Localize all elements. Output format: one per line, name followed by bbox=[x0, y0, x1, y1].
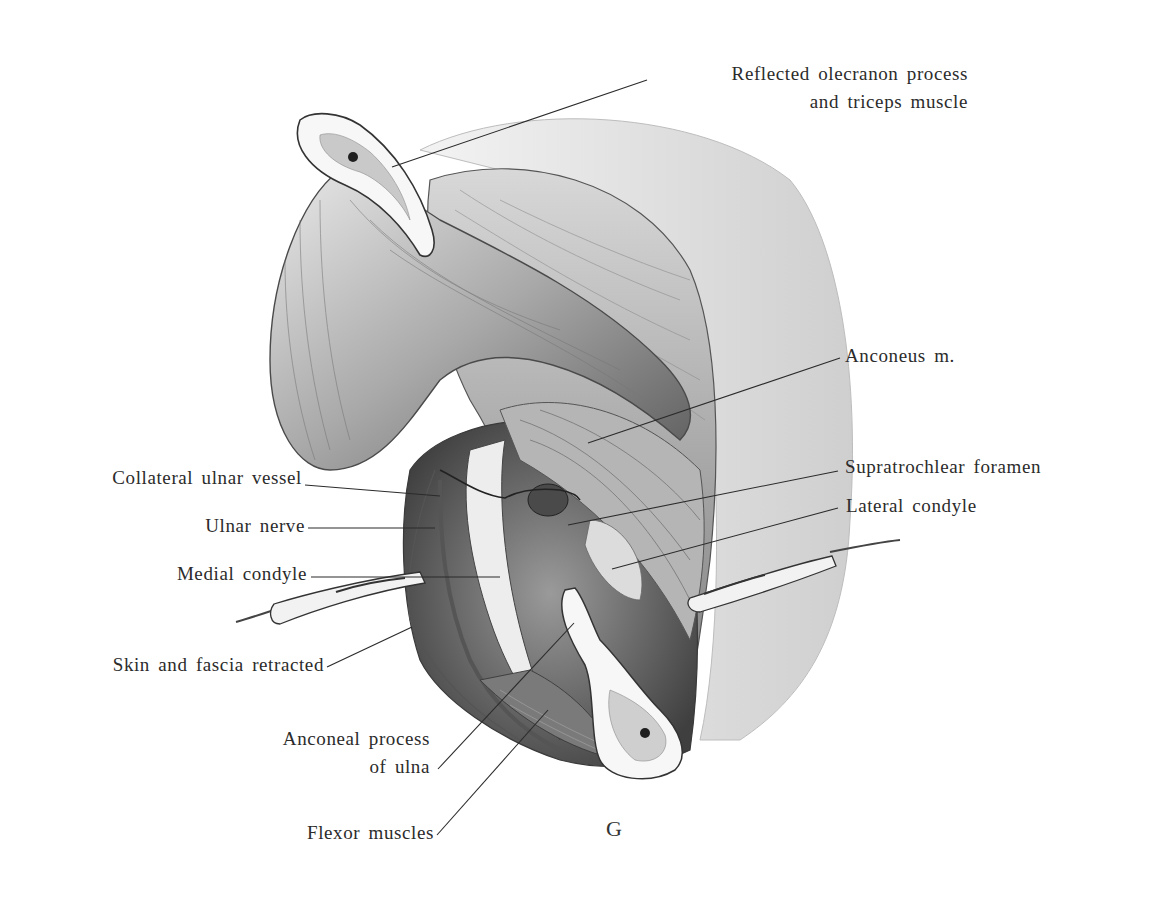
plate-letter: G bbox=[606, 816, 622, 842]
label-skin-fascia: Skin and fascia retracted bbox=[20, 653, 324, 677]
label-anconeal-process: Anconeal process of ulna bbox=[230, 727, 430, 779]
label-lateral-condyle: Lateral condyle bbox=[846, 494, 977, 518]
ulna-marrow-dot bbox=[640, 728, 650, 738]
label-medial-condyle: Medial condyle bbox=[100, 562, 307, 586]
anatomical-illustration bbox=[0, 0, 1150, 901]
label-supratrochlear-foramen: Supratrochlear foramen bbox=[845, 455, 1041, 479]
label-reflected-olecranon: Reflected olecranon process and triceps … bbox=[650, 62, 968, 114]
leader-skin-fascia bbox=[327, 627, 412, 667]
label-flexor-muscles: Flexor muscles bbox=[230, 821, 434, 845]
marrow-canal-dot bbox=[348, 152, 358, 162]
label-anconeus: Anconeus m. bbox=[845, 344, 955, 368]
label-ulnar-nerve: Ulnar nerve bbox=[140, 514, 305, 538]
label-collateral-ulnar-vessel: Collateral ulnar vessel bbox=[40, 466, 302, 490]
